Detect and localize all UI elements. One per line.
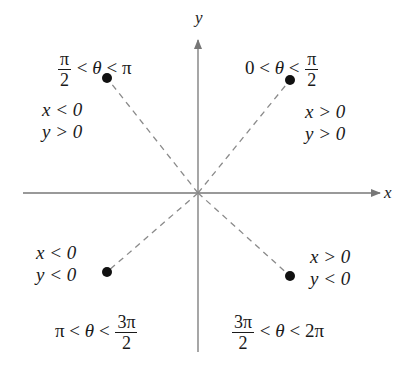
angle-range-q2: π 2 < θ < π (57, 50, 131, 89)
dashed-line-q2 (107, 78, 198, 193)
fraction: π 2 (58, 50, 71, 89)
point-q4 (285, 271, 295, 281)
point-q3 (102, 267, 112, 277)
fraction: 3π 2 (232, 313, 254, 352)
fraction: 3π 2 (115, 313, 137, 352)
conditions-q2: x < 0 y > 0 (42, 99, 82, 143)
dashed-line-q4 (198, 193, 290, 276)
conditions-q1: x > 0 y > 0 (305, 101, 345, 145)
angle-range-q3: π < θ < 3π 2 (55, 313, 138, 352)
y-axis-label: y (195, 8, 203, 28)
x-axis-label: x (384, 183, 392, 203)
fraction: π 2 (305, 50, 318, 89)
angle-range-q1: 0 < θ < π 2 (245, 50, 319, 89)
conditions-q4: x > 0 y < 0 (310, 246, 350, 290)
angle-range-q4: 3π 2 < θ < 2π (231, 313, 324, 352)
dashed-line-q1 (198, 80, 290, 193)
dashed-line-q3 (107, 193, 198, 272)
conditions-q3: x < 0 y < 0 (36, 242, 76, 286)
